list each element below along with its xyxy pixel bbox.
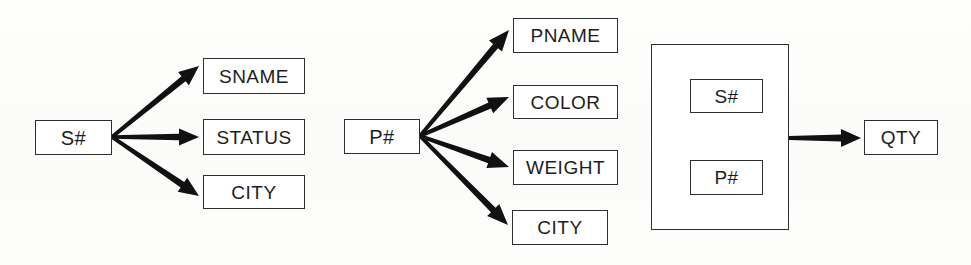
arrow-s-status [112,129,199,146]
node-label: P# [714,168,738,187]
node-s-num-determinant[interactable]: S# [35,120,112,155]
composite-key-box [651,44,789,230]
node-p-num-member[interactable]: P# [690,160,763,195]
node-label: CITY [537,218,582,237]
node-qty[interactable]: QTY [864,120,938,155]
node-pname[interactable]: PNAME [513,18,618,53]
node-label: SNAME [219,67,289,86]
node-label: COLOR [530,93,600,112]
node-p-num-determinant[interactable]: P# [344,119,420,154]
functional-dependency-diagram: S# SNAME STATUS CITY P# PNAME COLOR WEIG… [0,0,971,265]
node-label: P# [369,127,394,147]
node-label: QTY [881,128,922,147]
arrow-p-pname [419,30,509,137]
arrow-key-qty [789,129,861,147]
paper-background [0,0,971,265]
arrow-p-weight [419,134,509,168]
node-color[interactable]: COLOR [513,85,618,119]
node-label: S# [61,128,86,148]
node-label: PNAME [530,26,600,45]
node-label: CITY [231,183,276,202]
node-city-part[interactable]: CITY [512,210,608,245]
node-city-supplier[interactable]: CITY [203,175,305,209]
node-label: S# [714,87,738,106]
arrow-s-city [111,136,199,196]
node-sname[interactable]: SNAME [203,58,305,94]
node-label: WEIGHT [526,158,605,177]
arrow-p-city [419,135,508,225]
arrow-layer [0,0,971,265]
arrow-s-sname [111,66,199,138]
node-status[interactable]: STATUS [203,119,305,155]
node-label: STATUS [216,128,291,147]
node-weight[interactable]: WEIGHT [513,150,618,185]
arrow-p-color [419,97,509,138]
node-s-num-member[interactable]: S# [690,79,763,113]
